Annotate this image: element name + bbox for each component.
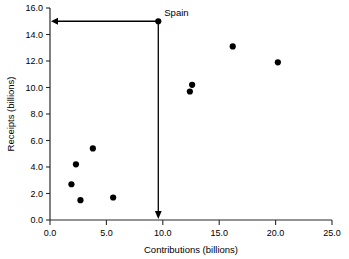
x-axis-ticks: 0.05.010.015.020.025.0 <box>44 220 341 238</box>
y-tick-label: 10.0 <box>25 83 43 93</box>
data-point <box>230 43 236 49</box>
x-tick-label: 0.0 <box>44 228 57 238</box>
data-point <box>187 88 193 94</box>
y-tick-label: 0.0 <box>30 215 43 225</box>
x-tick-label: 10.0 <box>154 228 172 238</box>
y-tick-label: 8.0 <box>30 109 43 119</box>
y-axis-ticks: 0.02.04.06.08.010.012.014.016.0 <box>25 3 50 225</box>
y-tick-label: 4.0 <box>30 162 43 172</box>
y-tick-label: 2.0 <box>30 189 43 199</box>
data-points-group <box>68 18 281 203</box>
data-point <box>68 181 74 187</box>
data-point <box>90 145 96 151</box>
y-tick-label: 6.0 <box>30 136 43 146</box>
annotation-arrowhead-down <box>155 211 162 219</box>
y-tick-label: 16.0 <box>25 3 43 13</box>
y-tick-label: 14.0 <box>25 30 43 40</box>
scatter-chart: 0.02.04.06.08.010.012.014.016.0 0.05.010… <box>0 0 349 259</box>
x-tick-label: 20.0 <box>267 228 285 238</box>
axes-group <box>50 8 332 220</box>
data-point <box>73 161 79 167</box>
y-tick-label: 12.0 <box>25 56 43 66</box>
data-point <box>155 18 161 24</box>
annotation-arrowhead-left <box>51 18 58 25</box>
y-axis-title: Receipts (billions) <box>5 77 16 152</box>
annotation-label-spain: Spain <box>164 7 188 18</box>
x-tick-label: 5.0 <box>100 228 113 238</box>
data-point <box>77 197 83 203</box>
data-point <box>110 194 116 200</box>
plot-area: 0.02.04.06.08.010.012.014.016.0 0.05.010… <box>0 0 349 259</box>
x-tick-label: 15.0 <box>210 228 228 238</box>
x-tick-label: 25.0 <box>323 228 341 238</box>
data-point <box>275 59 281 65</box>
data-point <box>189 82 195 88</box>
x-axis-title: Contributions (billions) <box>144 244 238 255</box>
